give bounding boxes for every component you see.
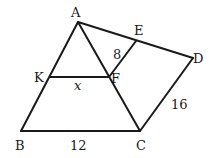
measure-bc: 12 <box>70 138 87 153</box>
point-label-e: E <box>134 23 144 38</box>
point-label-d: D <box>193 51 203 66</box>
geometry-diagram: A E D K F B C 8 x 12 16 <box>0 0 217 158</box>
measure-dc: 16 <box>171 97 188 112</box>
measure-ef: 8 <box>113 47 121 62</box>
point-label-a: A <box>70 5 81 20</box>
point-label-c: C <box>136 138 146 153</box>
point-label-b: B <box>15 138 25 153</box>
measure-kf: x <box>74 78 82 93</box>
segment-dc <box>140 58 193 131</box>
point-label-k: K <box>34 70 44 85</box>
point-label-f: F <box>111 71 120 86</box>
